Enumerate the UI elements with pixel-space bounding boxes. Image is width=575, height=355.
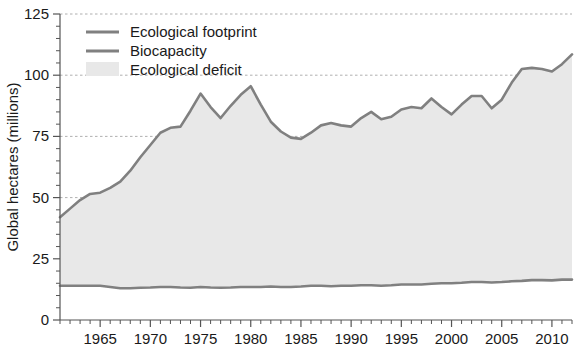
x-tick-label-1970: 1970 bbox=[134, 330, 167, 347]
legend-swatch-ecological-deficit bbox=[86, 62, 119, 76]
legend-label-biocapacity: Biocapacity bbox=[130, 42, 207, 59]
legend-label-ecological-deficit: Ecological deficit bbox=[130, 61, 243, 78]
x-tick-label-1965: 1965 bbox=[83, 330, 116, 347]
y-tick-label-50: 50 bbox=[32, 189, 49, 206]
y-tick-label-0: 0 bbox=[41, 311, 49, 328]
y-tick-label-100: 100 bbox=[24, 66, 49, 83]
y-tick-label-75: 75 bbox=[32, 127, 49, 144]
x-tick-label-1995: 1995 bbox=[385, 330, 418, 347]
x-tick-label-2000: 2000 bbox=[435, 330, 468, 347]
x-tick-label-1975: 1975 bbox=[184, 330, 217, 347]
y-tick-label-125: 125 bbox=[24, 5, 49, 22]
chart-container: 0255075100125196519701975198019851990199… bbox=[0, 0, 575, 355]
y-axis-title: Global hectares (millions) bbox=[4, 82, 21, 251]
x-tick-label-1990: 1990 bbox=[334, 330, 367, 347]
x-tick-label-1985: 1985 bbox=[284, 330, 317, 347]
x-tick-label-2005: 2005 bbox=[485, 330, 518, 347]
y-tick-label-25: 25 bbox=[32, 250, 49, 267]
x-tick-label-2010: 2010 bbox=[535, 330, 568, 347]
legend-label-ecological-footprint: Ecological footprint bbox=[130, 23, 258, 40]
x-tick-label-1980: 1980 bbox=[234, 330, 267, 347]
ecological-footprint-chart: 0255075100125196519701975198019851990199… bbox=[0, 0, 575, 355]
